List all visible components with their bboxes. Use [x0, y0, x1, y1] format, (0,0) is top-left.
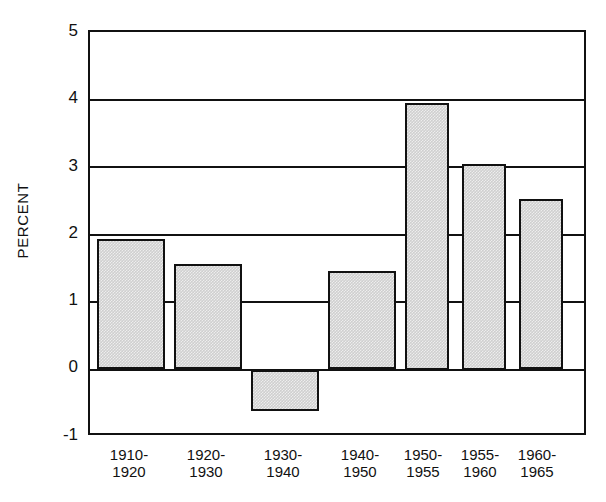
- x-axis-tick-label-line1: 1930-: [242, 446, 324, 463]
- x-axis-tick-label: 1940-1950: [319, 446, 401, 480]
- y-axis-tick-label: 2: [44, 224, 78, 241]
- x-axis-tick-label: 1960-1965: [504, 446, 570, 480]
- bar: [174, 264, 242, 369]
- plot-area: [88, 30, 586, 435]
- y-axis-tick-label: 4: [44, 89, 78, 106]
- y-axis-tick-label: 0: [44, 358, 78, 375]
- y-axis-tick-label: 3: [44, 157, 78, 174]
- bar-chart: PERCENT 543210-1 1910-19201920-19301930-…: [0, 0, 606, 502]
- x-axis-tick-label-line1: 1960-: [504, 446, 570, 463]
- bar: [97, 239, 165, 369]
- gridline: [90, 166, 584, 168]
- x-axis-tick-label-line2: 1940: [242, 463, 324, 480]
- x-axis-tick-label-line1: 1920-: [165, 446, 247, 463]
- bar: [328, 271, 396, 370]
- y-axis-title-text: PERCENT: [15, 182, 32, 258]
- gridline: [90, 99, 584, 101]
- x-axis-tick-label: 1930-1940: [242, 446, 324, 480]
- y-axis-tick-label: 1: [44, 291, 78, 308]
- x-axis-tick-label-line2: 1965: [504, 463, 570, 480]
- bar: [462, 164, 506, 370]
- x-axis-tick-label-line1: 1910-: [88, 446, 170, 463]
- x-axis-tick-label: 1910-1920: [88, 446, 170, 480]
- x-axis-tick-label-line1: 1940-: [319, 446, 401, 463]
- x-axis-tick-label-line2: 1920: [88, 463, 170, 480]
- y-axis-tick-label: 5: [44, 22, 78, 39]
- y-axis-title: PERCENT: [0, 0, 46, 440]
- x-axis-tick-label-line2: 1950: [319, 463, 401, 480]
- x-axis-tick-label: 1920-1930: [165, 446, 247, 480]
- bar: [251, 370, 319, 411]
- x-axis-tick-label-line2: 1930: [165, 463, 247, 480]
- zero-baseline: [90, 369, 584, 371]
- bar: [405, 103, 449, 370]
- gridline: [90, 234, 584, 236]
- y-axis-tick-label: -1: [44, 426, 78, 443]
- bar: [519, 199, 563, 369]
